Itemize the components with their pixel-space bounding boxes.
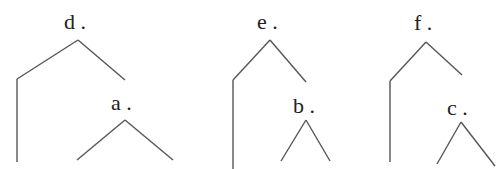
tree-diagram: d . a . e . b . f . c . bbox=[0, 0, 496, 169]
tree-edge bbox=[17, 40, 78, 79]
tree-edge bbox=[426, 42, 462, 75]
tree-edge bbox=[125, 120, 173, 160]
tree-edge bbox=[77, 120, 125, 160]
tree-edge bbox=[270, 40, 306, 82]
tree-edge bbox=[437, 122, 461, 164]
tree-f-child-label: c . bbox=[447, 97, 468, 119]
tree-e-child-label: b . bbox=[293, 95, 315, 117]
tree-e-root-label: e . bbox=[257, 11, 278, 33]
tree-edge bbox=[306, 120, 330, 161]
tree-d-child-label: a . bbox=[111, 92, 132, 114]
tree-edge bbox=[233, 40, 270, 80]
tree-edge bbox=[78, 40, 125, 80]
tree-d-root-label: d . bbox=[64, 11, 86, 33]
tree-f-root-label: f . bbox=[414, 12, 432, 34]
tree-edge bbox=[281, 120, 306, 161]
tree-edge bbox=[390, 42, 426, 81]
tree-edge bbox=[461, 122, 495, 166]
